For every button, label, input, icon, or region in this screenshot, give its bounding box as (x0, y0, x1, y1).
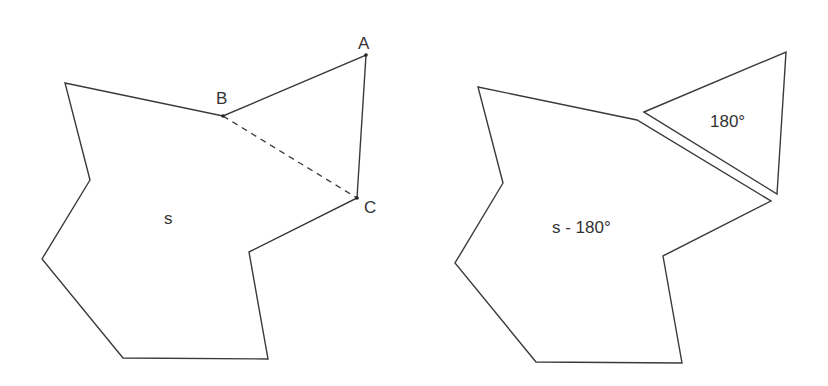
left-polygon (42, 55, 366, 359)
diagonal-bc (223, 116, 357, 198)
right-figure: 180° s - 180° (455, 52, 786, 363)
area-label-s: s (164, 209, 173, 228)
triangle-angle-label: 180° (710, 112, 745, 131)
vertex-b-label: B (216, 89, 227, 108)
vertex-b-dot (221, 114, 225, 118)
polygon-remaining-label: s - 180° (552, 218, 611, 237)
vertex-c-label: C (364, 198, 376, 217)
left-figure: A B C s (42, 34, 376, 359)
vertex-a-dot (364, 53, 368, 57)
polygon-angle-sum-diagram: A B C s 180° s - 180° (0, 0, 828, 386)
vertex-c-dot (355, 196, 359, 200)
vertex-a-label: A (358, 34, 370, 53)
